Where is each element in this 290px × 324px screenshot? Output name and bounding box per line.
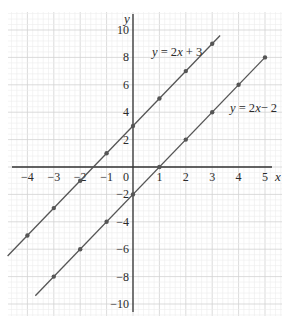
data-point <box>131 192 135 196</box>
data-point <box>236 83 240 87</box>
data-point <box>104 220 108 224</box>
data-point <box>78 179 82 183</box>
y-tick-label: 8 <box>123 50 129 64</box>
y-tick-label: −2 <box>116 187 129 201</box>
y-tick-label: −8 <box>116 270 129 284</box>
x-axis-label: x <box>274 169 281 184</box>
y-tick-label: 4 <box>123 105 129 119</box>
data-point <box>25 233 29 237</box>
x-tick-label: 2 <box>183 170 189 184</box>
x-tick-label: 1 <box>156 170 162 184</box>
data-point <box>184 69 188 73</box>
y-axis-label: y <box>122 11 130 26</box>
axes <box>12 14 272 312</box>
x-tick-label: −1 <box>100 170 113 184</box>
data-point <box>157 96 161 100</box>
equation-label-2: y = 2x− 2 <box>228 101 277 115</box>
grid <box>8 12 282 316</box>
x-tick-label: 3 <box>209 170 215 184</box>
data-point <box>52 206 56 210</box>
data-point <box>263 55 267 59</box>
y-tick-label: −10 <box>110 297 129 311</box>
x-tick-label: −3 <box>47 170 60 184</box>
x-tick-label: 5 <box>262 170 268 184</box>
series-2 <box>35 55 267 296</box>
data-point <box>78 247 82 251</box>
y-tick-label: 6 <box>123 78 129 92</box>
data-point <box>52 274 56 278</box>
origin-label: 0 <box>123 170 129 184</box>
x-tick-label: 4 <box>236 170 242 184</box>
x-tick-label: −4 <box>21 170 34 184</box>
data-point <box>131 124 135 128</box>
data-point <box>210 42 214 46</box>
y-tick-label: −4 <box>116 215 129 229</box>
data-point <box>157 165 161 169</box>
equation-label-1: y = 2x + 3 <box>150 45 202 59</box>
line-graph: −4−3−2−1123450−10−8−6−4−2246810 x y y = … <box>0 0 290 324</box>
data-point <box>210 110 214 114</box>
data-point <box>184 137 188 141</box>
data-point <box>104 151 108 155</box>
y-tick-label: −6 <box>116 242 129 256</box>
